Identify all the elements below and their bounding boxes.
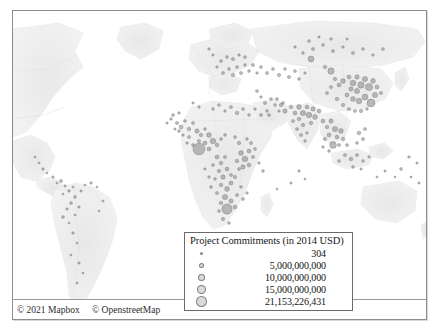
legend-label-1: 304 (213, 248, 348, 259)
legend-symbol-5 (189, 296, 213, 307)
legend-title: Project Commitments (in 2014 USD) (189, 234, 348, 247)
attribution-openstreetmap[interactable]: © OpenstreetMap (92, 305, 160, 315)
legend-symbol-3 (189, 274, 213, 281)
legend-label-4: 15,000,000,000 (213, 284, 348, 295)
legend-row: 10,000,000,000 (189, 271, 348, 283)
attribution-mapbox[interactable]: © 2021 Mapbox (17, 305, 80, 315)
legend-symbol-2 (189, 263, 213, 268)
legend-row: 304 (189, 247, 348, 259)
legend-symbol-4 (189, 285, 213, 294)
legend-row: 5,000,000,000 (189, 259, 348, 271)
map-figure: Project Commitments (in 2014 USD) 304 5,… (0, 0, 438, 329)
legend-symbol-1 (189, 252, 213, 255)
legend-row: 21,153,226,431 (189, 295, 348, 307)
map-legend: Project Commitments (in 2014 USD) 304 5,… (184, 232, 353, 311)
legend-row: 15,000,000,000 (189, 283, 348, 295)
legend-label-2: 5,000,000,000 (213, 260, 348, 271)
legend-label-3: 10,000,000,000 (213, 272, 348, 283)
legend-label-5: 21,153,226,431 (213, 296, 348, 307)
map-frame[interactable]: Project Commitments (in 2014 USD) 304 5,… (12, 10, 427, 320)
